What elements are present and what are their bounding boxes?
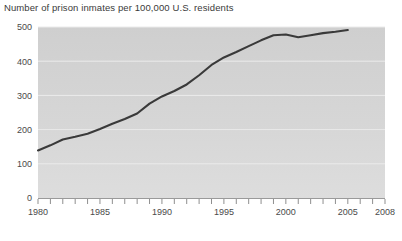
x-axis-tick-label: 2008 (375, 207, 395, 217)
x-axis-tick-label: 1995 (214, 207, 234, 217)
line-chart: 0100200300400500 19801985199019952000200… (0, 0, 402, 241)
x-axis-minor-ticks (38, 199, 385, 204)
plot-area-background (38, 27, 385, 198)
y-axis-tick-label: 100 (17, 159, 32, 169)
y-axis-tick-label: 0 (27, 193, 32, 203)
x-axis-tick-label: 1985 (90, 207, 110, 217)
y-axis-tick-labels: 0100200300400500 (17, 22, 32, 203)
x-axis-tick-label: 2005 (338, 207, 358, 217)
x-axis-tick-labels: 1980198519901995200020052008 (28, 207, 395, 217)
y-axis-tick-label: 500 (17, 22, 32, 32)
x-axis-tick-label: 1990 (152, 207, 172, 217)
y-axis-tick-label: 300 (17, 91, 32, 101)
y-axis-tick-label: 200 (17, 125, 32, 135)
x-axis-tick-label: 2000 (276, 207, 296, 217)
x-axis-tick-label: 1980 (28, 207, 48, 217)
chart-container: Number of prison inmates per 100,000 U.S… (0, 0, 402, 241)
y-axis-tick-label: 400 (17, 57, 32, 67)
